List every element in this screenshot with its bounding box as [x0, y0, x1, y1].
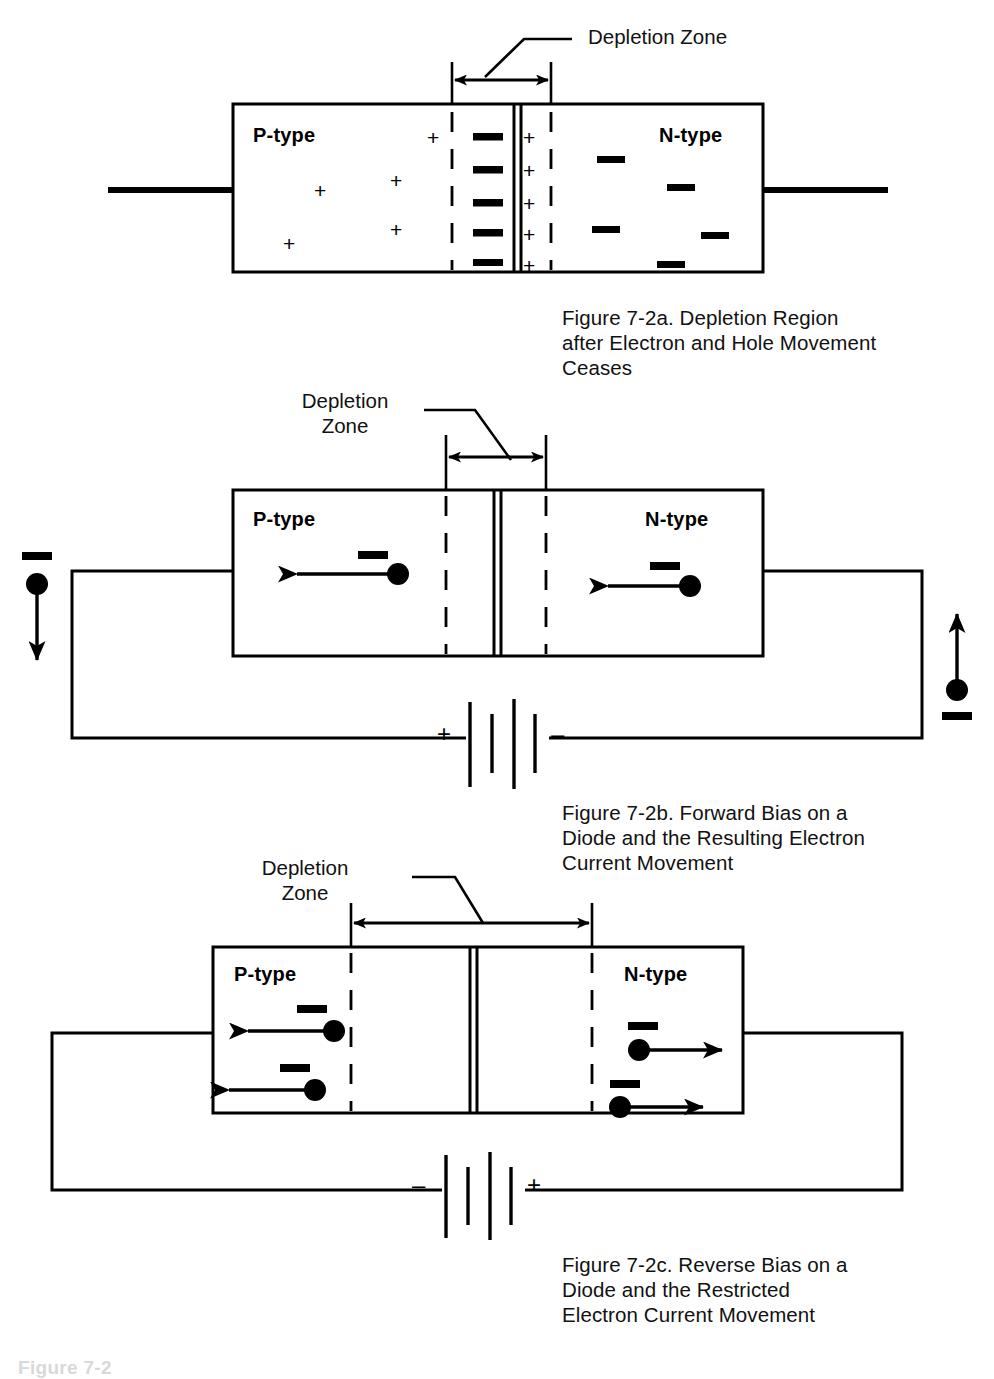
fig-c-n-type-label: N-type [624, 963, 687, 986]
fig-c-battery-symbol [446, 1152, 511, 1240]
fig-c-depletion-zone-label: Depletion Zone [215, 855, 395, 905]
fig-c-p-type-label: P-type [234, 963, 296, 986]
fig-c-zone-extension-lines [351, 903, 592, 947]
fig-c-battery-negative-terminal: – [412, 1173, 425, 1197]
fig-c-electron-p-region [229, 1064, 326, 1101]
fig-c-electron-n-region [628, 1022, 722, 1061]
fig-c-zone-leader [412, 877, 483, 923]
fig-c-caption: Figure 7-2c. Reverse Bias on a Diode and… [562, 1252, 982, 1327]
fig-c-battery-positive-terminal: + [527, 1173, 541, 1197]
fig-c-electron-p-region [248, 1005, 345, 1042]
page-footer-partial-text: Figure 7-2 [18, 1357, 112, 1379]
